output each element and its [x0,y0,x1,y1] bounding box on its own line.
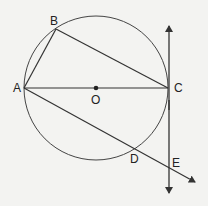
center-point-o [94,86,99,91]
label-o: O [91,93,100,107]
label-b: B [50,14,58,28]
label-a: A [13,81,21,95]
segment-ab [24,29,56,88]
label-d: D [130,152,139,166]
geometry-diagram: A B C O D E [0,0,208,206]
label-c: C [174,81,183,95]
segment-bc [56,29,168,88]
label-e: E [172,156,180,170]
